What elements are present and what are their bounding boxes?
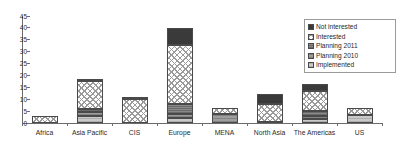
bar-segment[interactable]	[122, 99, 148, 123]
x-axis-tick-mark	[157, 123, 158, 126]
legend-item[interactable]: Interested	[308, 32, 393, 41]
x-axis-tick-label: Africa	[22, 128, 67, 138]
x-axis-tick-mark	[337, 123, 338, 126]
bar-segment[interactable]	[347, 108, 373, 115]
bar-segment[interactable]	[347, 115, 373, 123]
legend-swatch-icon	[308, 53, 314, 59]
x-axis-tick-mark	[112, 123, 113, 126]
bar-segment[interactable]	[167, 118, 193, 123]
legend-swatch-icon	[308, 62, 314, 68]
legend-item[interactable]: Implemented	[308, 61, 393, 70]
bar-group[interactable]	[247, 16, 292, 123]
bar-segment[interactable]	[302, 116, 328, 120]
bar-segment[interactable]	[302, 119, 328, 123]
legend-item-label: Planning 2011	[316, 42, 358, 50]
legend-item-label: Interested	[316, 33, 345, 41]
bar-segment[interactable]	[167, 104, 193, 114]
bar-segment[interactable]	[302, 111, 328, 116]
x-axis-tick-label: The Americas	[292, 128, 337, 138]
x-axis-tick-mark	[202, 123, 203, 126]
bar-group[interactable]	[67, 16, 112, 123]
bar-group[interactable]	[157, 16, 202, 123]
bar-segment[interactable]	[122, 97, 148, 99]
x-axis-tick-label: North Asia	[247, 128, 292, 138]
bar-segment[interactable]	[302, 84, 328, 91]
bar-group[interactable]	[22, 16, 67, 123]
chart-title-strip	[0, 0, 403, 11]
bar-segment[interactable]	[77, 79, 103, 81]
bar-segment[interactable]	[212, 108, 238, 114]
bar-segment[interactable]	[257, 94, 283, 104]
x-axis-labels: AfricaAsia PacificCISEuropeMENANorth Asi…	[22, 128, 382, 142]
x-axis-tick-label: Europe	[157, 128, 202, 138]
legend-swatch-icon	[308, 43, 314, 49]
bar-segment[interactable]	[32, 116, 58, 123]
x-axis-tick-label: US	[337, 128, 382, 138]
bar-segment[interactable]	[212, 114, 238, 124]
bar-segment[interactable]	[77, 116, 103, 123]
legend-swatch-icon	[308, 24, 314, 30]
legend-item-label: Implemented	[316, 61, 354, 69]
x-axis-tick-mark	[67, 123, 68, 126]
x-axis-tick-mark	[382, 123, 383, 126]
x-axis-tick-label: MENA	[202, 128, 247, 138]
x-axis-tick-mark	[22, 123, 23, 126]
legend-item[interactable]: Planning 2011	[308, 42, 393, 51]
bar-segment[interactable]	[257, 104, 283, 122]
bar-group[interactable]	[112, 16, 157, 123]
bar-segment[interactable]	[77, 109, 103, 113]
bar-group[interactable]	[202, 16, 247, 123]
x-axis-tick-label: CIS	[112, 128, 157, 138]
legend-swatch-icon	[308, 34, 314, 40]
bar-segment[interactable]	[77, 112, 103, 116]
chart-legend: Not interestedInterestedPlanning 2011Pla…	[304, 19, 396, 73]
legend-item[interactable]: Not interested	[308, 23, 393, 32]
stacked-bar-chart: 051015202530354045 AfricaAsia PacificCIS…	[0, 0, 403, 145]
bar-segment[interactable]	[302, 91, 328, 111]
legend-item[interactable]: Planning 2010	[308, 51, 393, 60]
bar-segment[interactable]	[167, 114, 193, 119]
bar-segment[interactable]	[167, 28, 193, 45]
bar-segment[interactable]	[167, 45, 193, 104]
x-axis-tick-mark	[292, 123, 293, 126]
legend-item-label: Not interested	[316, 23, 357, 31]
bar-segment[interactable]	[77, 81, 103, 108]
x-axis-tick-mark	[247, 123, 248, 126]
legend-item-label: Planning 2010	[316, 52, 358, 60]
x-axis-tick-label: Asia Pacific	[67, 128, 112, 138]
